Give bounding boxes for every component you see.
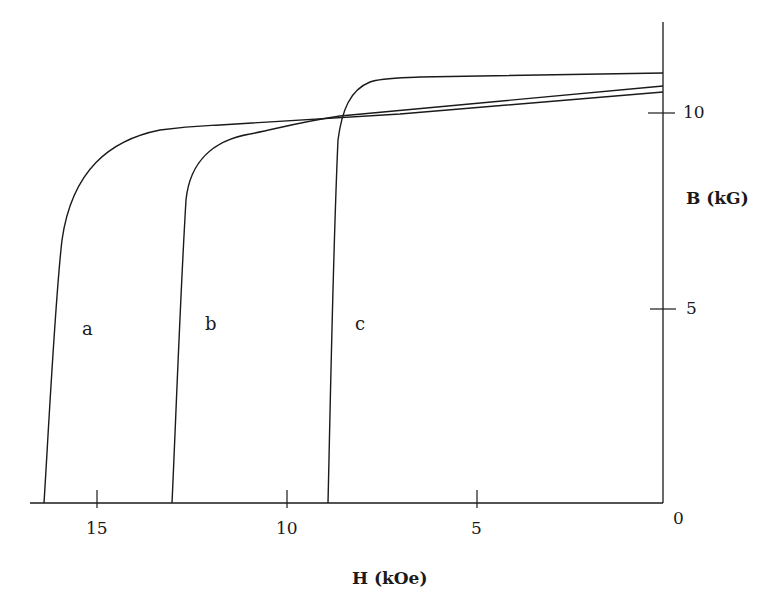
curve-label-c: c <box>355 313 365 334</box>
curve-label-b: b <box>205 313 217 334</box>
curve-label-a: a <box>82 318 93 339</box>
y-tick-label-10: 10 <box>683 102 705 122</box>
curve-c <box>328 73 663 503</box>
x-tick-label-0: 0 <box>673 508 684 528</box>
curve-a <box>44 92 663 503</box>
x-tick-label-10: 10 <box>276 518 298 538</box>
x-tick-label-15: 15 <box>86 518 108 538</box>
chart-canvas <box>0 0 780 606</box>
y-tick-label-5: 5 <box>686 298 697 318</box>
x-tick-label-5: 5 <box>471 518 482 538</box>
y-axis-title: B (kG) <box>686 188 749 208</box>
curve-b <box>172 86 663 503</box>
x-axis-title: H (kOe) <box>352 568 427 588</box>
